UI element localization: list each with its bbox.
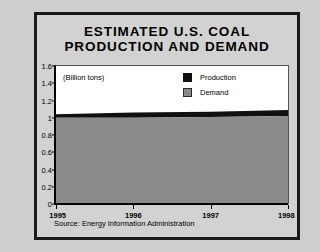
legend-item-demand: Demand bbox=[183, 85, 236, 100]
x-axis: 1995199619971998 bbox=[54, 203, 288, 205]
y-axis-tick-label: 1.4 bbox=[30, 79, 52, 88]
x-axis-tick-label: 1997 bbox=[202, 211, 219, 220]
legend-label-demand: Demand bbox=[200, 88, 228, 97]
y-axis-tick-label: 1 bbox=[30, 113, 52, 122]
y-axis-tick-label: 1.6 bbox=[30, 62, 52, 71]
x-axis-tick bbox=[133, 205, 134, 209]
x-axis-tick-label: 1998 bbox=[278, 211, 295, 220]
y-axis-tick bbox=[52, 169, 56, 170]
x-axis-tick bbox=[211, 205, 212, 209]
chart-title: ESTIMATED U.S. COAL PRODUCTION AND DEMAN… bbox=[37, 24, 297, 54]
area-series-group bbox=[56, 66, 288, 204]
production-swatch-icon bbox=[183, 73, 192, 82]
units-annotation: (Billion tons) bbox=[63, 73, 104, 82]
y-axis-tick bbox=[52, 100, 56, 101]
y-axis-tick bbox=[52, 135, 56, 136]
x-axis-tick bbox=[288, 205, 289, 209]
y-axis-tick bbox=[52, 117, 56, 118]
chart-legend: Production Demand bbox=[179, 67, 243, 103]
plot-area: 00.20.40.60.811.21.41.6 bbox=[54, 65, 289, 204]
y-axis-tick bbox=[52, 152, 56, 153]
y-axis-tick bbox=[52, 66, 56, 67]
y-axis-tick bbox=[52, 83, 56, 84]
chart-frame: ESTIMATED U.S. COAL PRODUCTION AND DEMAN… bbox=[34, 12, 300, 240]
chart-title-line1: ESTIMATED U.S. COAL bbox=[84, 24, 250, 39]
y-axis-tick-label: 0 bbox=[30, 200, 52, 209]
y-axis-tick-label: 0.4 bbox=[30, 165, 52, 174]
y-axis-tick-label: 0.2 bbox=[30, 182, 52, 191]
y-axis-tick bbox=[52, 186, 56, 187]
source-note: Source: Energy Information Administratio… bbox=[54, 219, 195, 228]
chart-title-line2: PRODUCTION AND DEMAND bbox=[37, 39, 297, 54]
y-axis-tick-label: 0.8 bbox=[30, 131, 52, 140]
y-axis-tick-label: 0.6 bbox=[30, 148, 52, 157]
y-axis-tick-label: 1.2 bbox=[30, 96, 52, 105]
legend-label-production: Production bbox=[200, 73, 236, 82]
legend-item-production: Production bbox=[183, 70, 236, 85]
demand-swatch-icon bbox=[183, 88, 192, 97]
demand-area bbox=[56, 116, 288, 204]
x-axis-tick bbox=[56, 205, 57, 209]
